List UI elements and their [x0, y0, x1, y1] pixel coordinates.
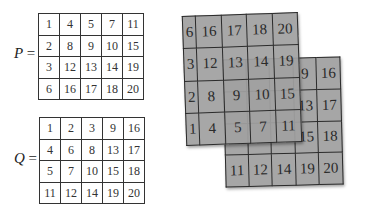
sheet-cell: 6 [182, 16, 197, 49]
sheet-cell: 10 [249, 78, 275, 111]
sheet-p-row: 3 12 13 14 19 [183, 45, 299, 81]
matrix-cell: 20 [124, 182, 145, 204]
sheet-cell: 14 [248, 46, 274, 79]
matrix-p-row: 2 8 9 10 15 [39, 35, 144, 57]
sheet-p-row: 1 4 5 7 11 [186, 109, 302, 145]
matrix-cell: 10 [82, 161, 103, 183]
matrix-cell: 15 [123, 35, 144, 57]
sheet-cell: 4 [199, 112, 225, 145]
matrix-cell: 19 [123, 57, 144, 79]
sheet-cell: 9 [223, 79, 249, 112]
matrix-p-row: 3 12 13 14 19 [39, 57, 144, 79]
matrix-p-symbol: P [14, 45, 23, 61]
sheet-cell: 12 [197, 47, 223, 80]
sheet-cell: 18 [246, 13, 272, 46]
matrix-cell: 15 [103, 161, 124, 183]
matrix-p-equals: = [27, 45, 35, 61]
matrix-q-symbol: Q [14, 150, 25, 166]
sheet-cell: 11 [275, 109, 302, 142]
sheet-cell: 17 [317, 89, 341, 121]
matrix-p-label: P = [14, 45, 35, 62]
sheet-cell: 7 [250, 110, 276, 143]
matrix-cell: 5 [81, 14, 102, 36]
matrix-cell: 18 [124, 161, 145, 183]
matrix-cell: 20 [123, 78, 144, 100]
matrix-cell: 7 [61, 161, 82, 183]
matrix-cell: 7 [102, 14, 123, 36]
matrix-cell: 16 [124, 118, 145, 140]
sheet-cell: 20 [319, 152, 343, 184]
sheet-cell: 11 [225, 155, 249, 187]
matrix-cell: 13 [103, 139, 124, 161]
matrix-cell: 17 [124, 139, 145, 161]
matrix-cell: 17 [81, 78, 102, 100]
matrix-cell: 9 [81, 35, 102, 57]
matrix-cell: 2 [39, 35, 60, 57]
sheet-cell: 19 [273, 45, 300, 78]
matrix-q-row: 5 7 10 15 18 [40, 161, 145, 183]
sheet-cell: 13 [222, 47, 248, 80]
sheet-cell: 3 [183, 48, 198, 81]
matrix-cell: 12 [61, 182, 82, 204]
sheet-cell: 18 [318, 120, 342, 152]
sheet-cell: 14 [272, 153, 296, 185]
sheet-q-row: 11 12 14 19 20 [225, 152, 343, 187]
sheet-cell: 15 [274, 77, 301, 110]
sheet-cell: 19 [295, 153, 319, 185]
sheet-cell: 16 [316, 57, 340, 89]
matrix-cell: 4 [60, 14, 81, 36]
matrix-cell: 14 [102, 57, 123, 79]
matrix-cell: 3 [39, 57, 60, 79]
matrix-cell: 8 [82, 139, 103, 161]
matrix-p-row: 1 4 5 7 11 [39, 14, 144, 36]
sheet-p: 6 16 17 18 20 3 12 13 14 19 2 8 9 10 15 … [182, 12, 302, 146]
matrix-cell: 13 [81, 57, 102, 79]
sheet-cell: 5 [224, 111, 250, 144]
matrix-cell: 10 [102, 35, 123, 57]
matrix-cell: 19 [103, 182, 124, 204]
sheet-cell: 2 [185, 81, 200, 114]
sheet-cell: 16 [196, 15, 222, 48]
matrix-q-row: 1 2 3 9 16 [40, 118, 145, 140]
matrix-cell: 16 [60, 78, 81, 100]
matrix-cell: 6 [39, 78, 60, 100]
matrix-cell: 5 [40, 161, 61, 183]
sheet-cell: 20 [272, 13, 299, 46]
matrix-q-equals: = [29, 150, 37, 166]
sheet-p-row: 2 8 9 10 15 [185, 77, 301, 113]
matrix-cell: 9 [103, 118, 124, 140]
sheet-cell: 12 [248, 154, 272, 186]
matrix-q-table: 1 2 3 9 16 4 6 8 13 17 5 7 10 15 18 11 1… [39, 117, 145, 204]
matrix-cell: 2 [61, 118, 82, 140]
matrix-cell: 8 [60, 35, 81, 57]
matrix-cell: 18 [102, 78, 123, 100]
sheet-cell: 1 [186, 113, 201, 146]
matrix-cell: 14 [82, 182, 103, 204]
matrix-cell: 11 [123, 14, 144, 36]
sheet-p-row: 6 16 17 18 20 [182, 13, 298, 49]
sheet-cell: 17 [221, 14, 247, 47]
matrix-q-row: 4 6 8 13 17 [40, 139, 145, 161]
matrix-p-table: 1 4 5 7 11 2 8 9 10 15 3 12 13 14 19 6 1… [38, 13, 144, 100]
sheet-p-grid: 6 16 17 18 20 3 12 13 14 19 2 8 9 10 15 … [182, 12, 302, 146]
matrix-q-row: 11 12 14 19 20 [40, 182, 145, 204]
matrix-cell: 12 [60, 57, 81, 79]
matrix-q-label: Q = [14, 150, 37, 167]
matrix-cell: 1 [39, 14, 60, 36]
matrix-cell: 4 [40, 139, 61, 161]
matrix-cell: 6 [61, 139, 82, 161]
sheet-cell: 8 [198, 80, 224, 113]
matrix-p-row: 6 16 17 18 20 [39, 78, 144, 100]
matrix-cell: 3 [82, 118, 103, 140]
matrix-cell: 11 [40, 182, 61, 204]
matrix-cell: 1 [40, 118, 61, 140]
